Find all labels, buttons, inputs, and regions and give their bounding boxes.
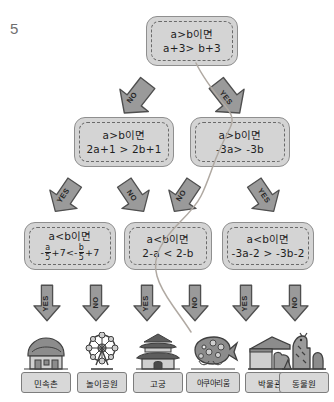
condition-box-l3-3[interactable]: a<b이면 -3a-2 > -3b-2 [222,222,314,270]
destination-label: 놀이공원 [86,377,117,389]
condition-line-1: a>b이면 [171,28,214,40]
condition-box-root[interactable]: a>b이면 a+3> b+3 [146,16,238,66]
destination-aquarium[interactable]: 아쿠아리움 [186,332,240,393]
condition-box-l2-right[interactable]: a>b이면 -3a> -3b [190,117,290,167]
palace-gate-icon [133,332,183,372]
question-number: 5 [10,20,18,37]
condition-box-l3-2[interactable]: a<b이면 2-a < 2-b [124,222,212,270]
condition-line-2: -3a-2 > -3b-2 [231,247,304,259]
arrow-no-level1[interactable]: NO [113,77,159,119]
condition-line-1: a>b이면 [103,129,146,141]
destination-label: 아쿠아리움 [197,377,230,388]
condition-box-l2-left[interactable]: a>b이면 2a+1 > 2b+1 [74,117,174,167]
arrow-no-l3-4[interactable]: NO [181,283,209,323]
arrow-yes-l3-3[interactable]: YES [133,283,161,323]
condition-line-1: a<b이면 [147,233,190,245]
aquarium-fish-icon [186,332,240,372]
destination-label: 민속촌 [34,377,57,389]
condition-line-2: a+3> b+3 [163,42,221,54]
worksheet-canvas: 5 a>b이면 a+3> b+3 NO YES a>b이면 2a+1 > 2b+… [0,0,334,402]
fraction-1: a5 [45,244,50,262]
ferris-wheel-icon [77,332,127,372]
destination-plate[interactable]: 고궁 [133,372,183,393]
arrow-no-l3-6[interactable]: NO [281,283,309,323]
arrow-no-l3-2[interactable]: NO [82,283,110,323]
condition-line-1: a<b이면 [247,233,290,245]
condition-line-1: a<b이면 [49,230,92,242]
arrow-yes-l2-4[interactable]: YES [243,177,285,217]
arrow-yes-level1[interactable]: YES [205,77,251,119]
arrow-label-no: NO [290,296,299,308]
arrow-no-l2-3[interactable]: NO [163,177,205,217]
condition-line-2: 2a+1 > 2b+1 [86,143,161,155]
condition-box-l3-1[interactable]: a<b이면 -a5+7<-b5+7 [24,222,116,270]
destination-palace[interactable]: 고궁 [133,332,183,393]
condition-line-2: -3a> -3b [216,143,264,155]
arrow-yes-l3-5[interactable]: YES [232,283,260,323]
condition-line-1: a>b이면 [219,129,262,141]
arrow-no-l2-2[interactable]: NO [113,177,155,217]
destination-plate[interactable]: 놀이공원 [77,372,127,393]
frac-prefix: - [41,247,45,258]
arrow-label-no: NO [91,296,100,308]
destination-zoo[interactable]: 동물원 [279,332,329,393]
condition-line-2: -a5+7<-b5+7 [41,244,100,262]
destination-folk-village[interactable]: 민속촌 [21,332,71,393]
arrow-yes-l3-1[interactable]: YES [33,283,61,323]
destination-amusement-park[interactable]: 놀이공원 [77,332,127,393]
destination-plate[interactable]: 동물원 [279,372,329,393]
folk-village-icon [21,332,71,372]
frac-suffix: +7 [85,247,99,258]
condition-line-2: 2-a < 2-b [142,247,193,259]
destination-label: 동물원 [292,377,315,389]
destination-label: 고궁 [150,377,166,389]
destination-plate[interactable]: 아쿠아리움 [186,372,240,393]
giraffe-zoo-icon [279,332,329,372]
arrow-label-yes: YES [240,295,249,311]
arrow-label-yes: YES [141,295,150,311]
destination-plate[interactable]: 민속촌 [21,372,71,393]
frac-mid: +7<- [52,247,78,258]
arrow-label-yes: YES [41,295,50,311]
arrow-label-no: NO [190,296,199,308]
arrow-yes-l2-1[interactable]: YES [44,177,86,217]
fraction-2: b5 [79,244,84,262]
